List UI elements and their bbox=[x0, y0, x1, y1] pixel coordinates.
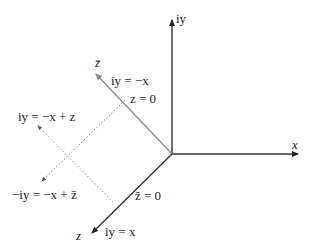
x-axis-label: x bbox=[292, 138, 298, 151]
dark-line-annotation-top: z̄ = 0 bbox=[135, 189, 161, 202]
gray-line-annotation-bottom: z = 0 bbox=[130, 92, 156, 105]
dark-line-annotation-bottom: iy = x bbox=[105, 225, 135, 238]
gray-line-annotation-top: iy = −x bbox=[111, 74, 149, 87]
iy-axis-label: iy bbox=[176, 12, 186, 25]
diagram-canvas bbox=[0, 0, 314, 249]
zbar-axis-label: z̄ bbox=[95, 56, 100, 69]
dotted-upper-annotation: iy = −x + z bbox=[18, 110, 75, 123]
z-axis-label: z bbox=[76, 229, 81, 242]
dotted-lower-annotation: −iy = −x + z̄ bbox=[12, 188, 77, 201]
